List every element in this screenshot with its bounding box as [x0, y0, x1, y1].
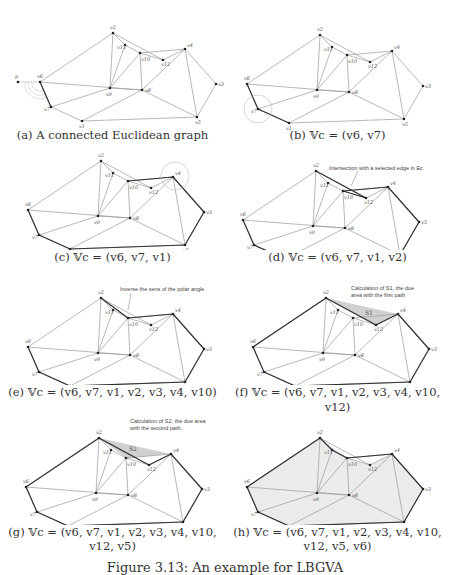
annotation: Calculation of S2, the due area — [130, 418, 206, 424]
graph-diagram: S2 Calculation of S2, the due area with … — [0, 415, 225, 525]
svg-text:p: p — [15, 73, 19, 80]
panel-b: (b) 𝕍c = (v6, v7) — [225, 0, 450, 130]
graph-diagram: Intersection with a selected edge in Ec — [225, 140, 450, 250]
annotation: Calculation of S1, the due — [351, 285, 414, 291]
annotation: with the second path. — [129, 425, 182, 431]
panel-g: S2 Calculation of S2, the due area with … — [0, 415, 225, 525]
panel-caption: (f) 𝕍c = (v6, v7, v1, v2, v3, v4, v10, v… — [225, 385, 450, 415]
panel-c: (c) 𝕍c = (v6, v7, v1) — [0, 140, 225, 250]
panel-caption-line2: v12, v5) — [0, 539, 225, 554]
panel-a: p (a) A connected Euclidean graph — [0, 0, 225, 130]
graph-diagram — [225, 415, 450, 525]
svg-text:S1: S1 — [365, 309, 373, 316]
annotation: Inverse the sens of the polar angle — [120, 286, 204, 292]
panel-caption: (h) 𝕍c = (v6, v7, v1, v2, v3, v4, v10, — [225, 525, 450, 540]
panel-d: Intersection with a selected edge in Ec … — [225, 140, 450, 250]
panel-f: S1 Calculation of S1, the due area with … — [225, 275, 450, 385]
annotation: Intersection with a selected edge in Ec — [329, 165, 423, 171]
panel-caption: (g) 𝕍c = (v6, v7, v1, v2, v3, v4, v10, — [0, 525, 225, 540]
panel-e: Inverse the sens of the polar angle (e) … — [0, 275, 225, 385]
panel-caption: (d) 𝕍c = (v6, v7, v1, v2) — [225, 250, 450, 265]
graph-diagram — [225, 0, 450, 130]
svg-text:S2: S2 — [129, 445, 137, 452]
figure-caption: Figure 3.13: An example for LBGVA — [0, 560, 450, 575]
panel-caption: (e) 𝕍c = (v6, v7, v1, v2, v3, v4, v10) — [0, 385, 225, 400]
annotation: area with the first path — [351, 292, 405, 298]
panel-caption-line2: v12, v5, v6) — [225, 539, 450, 554]
panel-caption: (c) 𝕍c = (v6, v7, v1) — [0, 250, 225, 265]
graph-diagram — [0, 140, 225, 250]
panel-h: (h) 𝕍c = (v6, v7, v1, v2, v3, v4, v10, v… — [225, 415, 450, 525]
graph-diagram: p — [0, 0, 225, 130]
graph-diagram: Inverse the sens of the polar angle — [0, 275, 225, 385]
graph-diagram: S1 Calculation of S1, the due area with … — [225, 275, 450, 385]
